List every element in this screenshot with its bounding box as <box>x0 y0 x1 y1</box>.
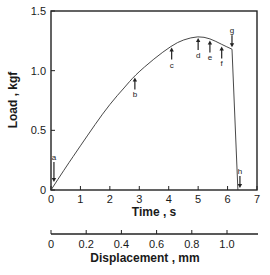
x-tick-label: 2 <box>107 193 113 205</box>
x-tick-label: 6 <box>225 193 231 205</box>
arrow-down-icon <box>230 43 234 47</box>
annotation-e: e <box>208 40 213 62</box>
arrow-up-icon <box>208 40 212 44</box>
displacement-tick-label: 0.2 <box>79 238 94 250</box>
arrow-up-icon <box>196 38 200 42</box>
annotation-label: f <box>221 59 224 68</box>
annotation-a: a <box>52 153 57 182</box>
x-axis-ticks: 01234567 <box>48 186 260 205</box>
annotation-label: g <box>230 26 234 35</box>
annotation-f: f <box>219 46 223 68</box>
arrow-up-icon <box>219 46 223 50</box>
displacement-axis: 00.20.40.60.81.0 <box>48 230 258 250</box>
arrow-down-icon <box>52 178 56 182</box>
annotation-label: e <box>208 53 213 62</box>
y-tick-label: 1.0 <box>31 65 46 77</box>
displacement-tick-label: 1.0 <box>219 238 234 250</box>
displacement-tick-label: 0 <box>48 238 54 250</box>
annotation-label: b <box>133 90 138 99</box>
y-axis-title: Load , kgf <box>6 71 20 129</box>
arrow-up-icon <box>169 48 173 52</box>
annotation-label: a <box>52 153 57 162</box>
annotation-g: g <box>230 26 234 47</box>
load-time-chart: 00.51.01.5 01234567 00.20.40.60.81.0 abc… <box>0 0 270 275</box>
annotation-label: h <box>238 167 242 176</box>
displacement-tick-label: 0.8 <box>184 238 199 250</box>
annotation-label: d <box>196 51 200 60</box>
x-tick-label: 0 <box>48 193 54 205</box>
annotation-c: c <box>169 48 173 70</box>
plot-border <box>51 11 257 190</box>
annotation-h: h <box>238 167 242 188</box>
point-annotations: abcdefgh <box>52 26 242 188</box>
arrow-down-icon <box>238 184 242 188</box>
x-tick-label: 4 <box>166 193 172 205</box>
x-tick-label: 5 <box>195 193 201 205</box>
y-tick-label: 0.5 <box>31 124 46 136</box>
annotation-label: c <box>170 61 174 70</box>
annotation-d: d <box>196 38 200 60</box>
x-tick-label: 3 <box>136 193 142 205</box>
x-axis-title: Time , s <box>132 205 177 219</box>
annotation-b: b <box>133 77 138 99</box>
displacement-axis-title: Displacement , mm <box>90 251 199 265</box>
y-tick-label: 0 <box>40 184 46 196</box>
x-tick-label: 1 <box>77 193 83 205</box>
displacement-tick-label: 0.4 <box>114 238 129 250</box>
displacement-tick-label: 0.6 <box>149 238 164 250</box>
plot-frame <box>51 11 257 190</box>
x-tick-label: 7 <box>254 193 260 205</box>
y-tick-label: 1.5 <box>31 5 46 17</box>
